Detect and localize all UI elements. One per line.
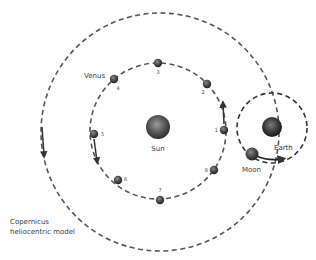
venus-icon-2: [203, 80, 211, 88]
venus-pos-num-2: 2: [201, 89, 204, 95]
venus-icon-1: [220, 126, 228, 134]
venus-icon-7: [156, 196, 164, 204]
earth-label: Earth: [274, 144, 293, 152]
venus-icon-3: [154, 59, 162, 67]
venus-icon-8: [210, 166, 218, 174]
caption-line-2: heliocentric model: [10, 228, 75, 236]
venus-icon-4: [110, 75, 118, 83]
venus-label: Venus: [84, 72, 105, 80]
sun-label: Sun: [151, 145, 164, 153]
moon-icon: [246, 148, 259, 161]
venus-pos-num-3: 3: [156, 69, 159, 75]
sun-icon: [146, 115, 170, 139]
venus-pos-num-5: 5: [101, 131, 104, 137]
venus-pos-num-4: 4: [116, 85, 119, 91]
venus-pos-num-1: 1: [215, 127, 218, 133]
venus-pos-num-6: 6: [124, 176, 127, 182]
earth-icon: [262, 117, 282, 137]
venus-direction-arrow-right: [223, 104, 224, 124]
venus-direction-arrow-left: [94, 139, 97, 161]
moon-direction-arrow: [256, 156, 282, 160]
moon-label: Moon: [242, 166, 261, 174]
venus-pos-num-7: 7: [158, 187, 161, 193]
earth-direction-arrow: [42, 127, 44, 155]
venus-icon-6: [114, 176, 122, 184]
heliocentric-diagram: Sun 1 2 3 4 5 6 7 8 Venus Earth Moon Cop…: [0, 0, 316, 260]
caption-line-1: Copernicus: [10, 218, 49, 226]
venus-icon-5: [90, 130, 98, 138]
venus-pos-num-8: 8: [205, 167, 208, 173]
